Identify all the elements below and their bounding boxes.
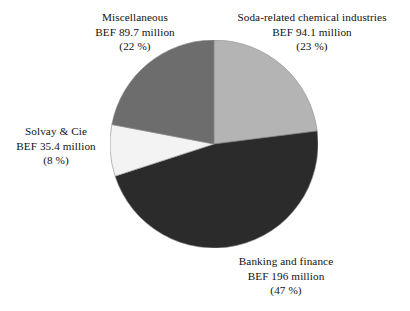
pie-label-miscellaneous-name: Miscellaneous (58, 10, 212, 25)
pie-label-soda-value: BEF 94.1 million (216, 25, 408, 40)
pie-label-soda-name: Soda-related chemical industries (216, 10, 408, 25)
pie-svg (110, 40, 318, 248)
pie-label-solvay-and-cie: Solvay & Cie BEF 35.4 million (8 %) (2, 124, 110, 168)
pie-label-solvay-percent: (8 %) (2, 153, 110, 168)
pie-label-solvay-name: Solvay & Cie (2, 124, 110, 139)
pie-label-miscellaneous: Miscellaneous BEF 89.7 million (22 %) (58, 10, 212, 54)
pie-label-banking-value: BEF 196 million (202, 269, 370, 284)
pie-label-banking-and-finance: Banking and finance BEF 196 million (47 … (202, 254, 370, 298)
pie-label-soda-percent: (23 %) (216, 39, 408, 54)
pie-slice-soda-related-chemical-industries[interactable] (214, 40, 317, 144)
pie-chart-graphic (110, 40, 318, 248)
pie-chart-figure: Miscellaneous BEF 89.7 million (22 %) So… (0, 0, 410, 311)
pie-label-miscellaneous-percent: (22 %) (58, 39, 212, 54)
pie-label-soda-related-chemical-industries: Soda-related chemical industries BEF 94.… (216, 10, 408, 54)
pie-label-banking-percent: (47 %) (202, 283, 370, 298)
pie-label-solvay-value: BEF 35.4 million (2, 139, 110, 154)
pie-label-miscellaneous-value: BEF 89.7 million (58, 25, 212, 40)
pie-label-banking-name: Banking and finance (202, 254, 370, 269)
pie-slices (110, 40, 318, 248)
